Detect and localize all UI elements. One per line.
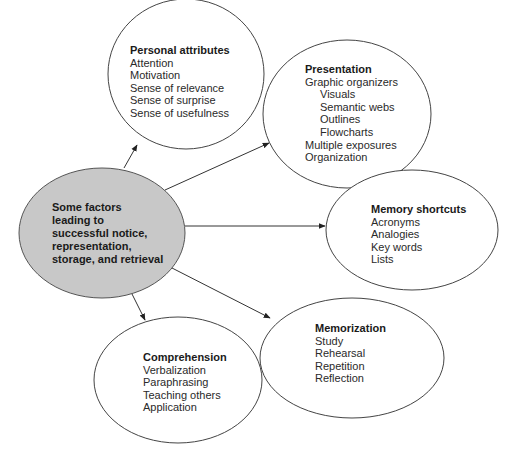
node-item: Verbalization	[143, 364, 227, 377]
node-item: Paraphrasing	[143, 376, 227, 389]
arrow-to-personal	[124, 145, 137, 168]
memorization-node: Memorization Study Rehearsal Repetition …	[315, 322, 386, 385]
center-line: successful notice,	[52, 227, 163, 240]
node-item: Lists	[371, 253, 466, 266]
node-subitem: Visuals	[305, 88, 398, 101]
node-item: Graphic organizers	[305, 76, 398, 89]
center-line: storage, and retrieval	[52, 253, 163, 266]
node-subitem: Flowcharts	[305, 126, 398, 139]
node-title: Personal attributes	[130, 44, 230, 57]
node-title: Memorization	[315, 322, 386, 335]
node-item: Attention	[130, 57, 230, 70]
node-subitem: Semantic webs	[305, 101, 398, 114]
arrow-to-memorization	[172, 268, 270, 318]
personal-attributes-node: Personal attributes Attention Motivation…	[130, 44, 230, 120]
node-item: Key words	[371, 241, 466, 254]
comprehension-node: Comprehension Verbalization Paraphrasing…	[143, 351, 227, 414]
node-title: Comprehension	[143, 351, 227, 364]
memory-shortcuts-node: Memory shortcuts Acronyms Analogies Key …	[371, 203, 466, 266]
arrow-to-presentation	[165, 143, 269, 190]
node-item: Study	[315, 335, 386, 348]
node-subitem: Outlines	[305, 113, 398, 126]
node-item: Sense of usefulness	[130, 107, 230, 120]
node-item: Application	[143, 401, 227, 414]
center-label: Some factors leading to successful notic…	[52, 201, 163, 266]
node-item: Motivation	[130, 69, 230, 82]
node-item: Acronyms	[371, 216, 466, 229]
node-item: Teaching others	[143, 389, 227, 402]
arrow-to-comprehension	[132, 294, 145, 320]
center-line: leading to	[52, 214, 163, 227]
node-item: Multiple exposures	[305, 139, 398, 152]
center-line: representation,	[52, 240, 163, 253]
node-item: Organization	[305, 151, 398, 164]
center-line: Some factors	[52, 201, 163, 214]
node-title: Memory shortcuts	[371, 203, 466, 216]
node-item: Rehearsal	[315, 347, 386, 360]
node-item: Reflection	[315, 372, 386, 385]
node-item: Repetition	[315, 360, 386, 373]
presentation-node: Presentation Graphic organizers Visuals …	[305, 63, 398, 164]
node-item: Analogies	[371, 228, 466, 241]
node-title: Presentation	[305, 63, 398, 76]
node-item: Sense of relevance	[130, 82, 230, 95]
node-item: Sense of surprise	[130, 94, 230, 107]
